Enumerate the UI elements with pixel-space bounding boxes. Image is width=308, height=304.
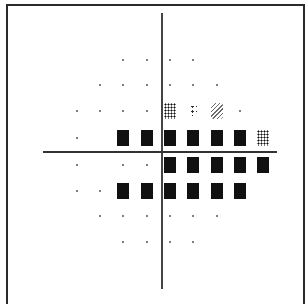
test-point-dot xyxy=(94,208,106,224)
test-point-dot xyxy=(71,157,83,173)
test-point-dot xyxy=(94,77,106,93)
test-point-dot xyxy=(234,103,246,119)
test-point-dot xyxy=(211,208,223,224)
test-point-dot xyxy=(71,103,83,119)
test-point-solid xyxy=(187,130,199,146)
test-point-dot xyxy=(117,157,129,173)
test-point-dot xyxy=(117,234,129,250)
test-point-sparse xyxy=(189,106,197,116)
test-point-solid xyxy=(187,183,199,199)
test-point-dot xyxy=(211,77,223,93)
test-point-solid xyxy=(211,130,223,146)
test-point-dot xyxy=(187,52,199,68)
test-point-dot xyxy=(187,77,199,93)
test-point-dot xyxy=(71,183,83,199)
test-point-dot xyxy=(141,103,153,119)
test-point-hatch xyxy=(211,103,223,119)
test-point-dense xyxy=(164,103,176,119)
test-point-dot xyxy=(164,77,176,93)
test-point-solid xyxy=(257,157,269,173)
test-point-dot xyxy=(141,208,153,224)
test-point-solid xyxy=(117,130,129,146)
test-point-dot xyxy=(117,208,129,224)
test-point-dot xyxy=(141,52,153,68)
test-point-dot xyxy=(141,234,153,250)
test-point-solid xyxy=(164,157,176,173)
test-point-solid xyxy=(211,157,223,173)
test-point-dot xyxy=(187,234,199,250)
test-point-solid xyxy=(187,157,199,173)
test-point-dot xyxy=(94,103,106,119)
test-point-dot xyxy=(94,183,106,199)
test-point-solid xyxy=(234,130,246,146)
test-point-solid xyxy=(141,183,153,199)
test-point-dot xyxy=(117,52,129,68)
horizontal-meridian-axis xyxy=(43,151,277,153)
test-point-solid xyxy=(211,183,223,199)
test-point-dot xyxy=(141,157,153,173)
test-point-solid xyxy=(234,157,246,173)
test-point-dot xyxy=(117,77,129,93)
test-point-dot xyxy=(164,234,176,250)
test-point-solid xyxy=(234,183,246,199)
test-point-dense xyxy=(257,130,269,146)
test-point-dot xyxy=(164,52,176,68)
test-point-solid xyxy=(164,130,176,146)
test-point-dot xyxy=(141,77,153,93)
test-point-solid xyxy=(117,183,129,199)
plot-frame xyxy=(6,4,305,304)
test-point-dot xyxy=(117,103,129,119)
test-point-dot xyxy=(71,130,83,146)
test-point-solid xyxy=(164,183,176,199)
test-point-dot xyxy=(164,208,176,224)
test-point-solid xyxy=(141,130,153,146)
test-point-dot xyxy=(187,208,199,224)
